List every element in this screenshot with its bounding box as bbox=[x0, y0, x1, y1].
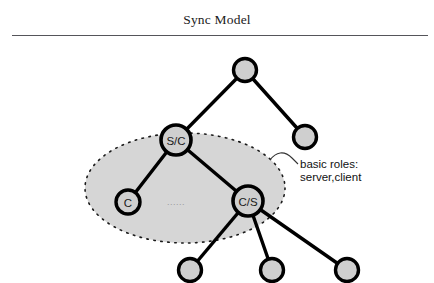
node-root[interactable] bbox=[234, 59, 257, 82]
edge-cs-leaf3 bbox=[248, 201, 347, 270]
node-server-client-label: S/C bbox=[166, 135, 185, 147]
node-client-label: C bbox=[124, 197, 132, 209]
annotation-line-2: server,client bbox=[300, 171, 362, 183]
annotation-line-1: basic roles: bbox=[300, 158, 358, 170]
sync-model-diagram: ...... S/C C C/S basic roles: server,cli… bbox=[0, 0, 434, 283]
node-leaf-1[interactable] bbox=[179, 259, 202, 282]
node-leaf-3[interactable] bbox=[336, 259, 359, 282]
ellipsis-label: ...... bbox=[167, 197, 185, 207]
slide-canvas: Sync Model ...... S/C C C/S bbox=[0, 0, 434, 283]
node-client-server-label: C/S bbox=[238, 196, 258, 208]
node-leaf-2[interactable] bbox=[261, 259, 284, 282]
annotation-leader-line bbox=[270, 153, 298, 164]
edge-root-right bbox=[245, 70, 305, 137]
node-right-leaf[interactable] bbox=[294, 126, 317, 149]
